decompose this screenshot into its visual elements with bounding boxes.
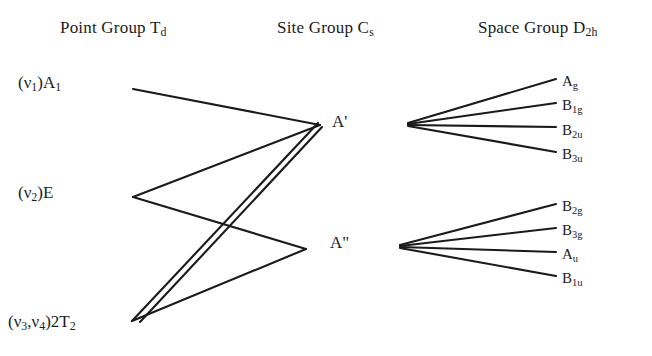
point-group-term-2t2-symbol: )2T [45,312,70,331]
site-group-term-a-prime: A' [332,112,347,132]
column-header-point-group-symbol: T [150,18,161,37]
column-header-point-group-subscript: d [161,25,167,39]
space-group-term-au-letter: A [562,246,573,262]
column-header-space-group-subscript: 2h [585,25,597,39]
column-header-space-group: Space Group D2h [478,18,598,38]
point-group-term-2t2-mode-separator: ,ν [27,312,39,331]
link-adprime-to-b3g [400,228,556,246]
space-group-term-au-subscript: u [573,253,578,264]
space-group-term-ag-subscript: g [573,80,578,91]
space-group-term-b2u: B2u [562,122,583,139]
space-group-term-ag-letter: A [562,73,573,89]
link-adprime-to-b2g [400,204,556,245]
space-group-term-b3g-letter: B [562,222,572,238]
column-header-space-group-symbol: D [573,18,585,37]
site-group-term-a-double-prime: A" [330,233,349,253]
column-header-site-group: Site Group Cs [277,18,374,38]
point-group-term-2t2-subscript: 2 [70,319,76,333]
point-group-term-e-symbol: )E [37,183,53,202]
link-aprime-to-b2u [408,125,556,127]
link-aprime-to-b1g [408,103,556,124]
point-group-term-a1-mode: (ν [18,73,31,92]
link-adprime-to-au [400,247,556,252]
space-group-term-b2u-letter: B [562,122,572,138]
column-header-space-group-text: Space Group [478,18,573,37]
point-group-term-2t2-mode: (ν [8,312,21,331]
link-aprime-to-ag [408,79,556,123]
space-group-term-b2u-subscript: 2u [572,129,583,140]
link-e-to-aprime [133,125,320,197]
column-header-site-group-text: Site Group [277,18,358,37]
column-header-site-group-subscript: s [369,25,374,39]
space-group-term-b3u: B3u [562,146,583,163]
point-group-term-2t2: (ν3,ν4)2T2 [8,312,76,332]
column-header-point-group-text: Point Group [60,18,150,37]
space-group-term-b1g-subscript: 1g [572,104,583,115]
space-group-term-b2g-subscript: 2g [572,205,583,216]
space-group-term-b3g: B3g [562,222,583,239]
point-group-term-a1-subscript: 1 [55,80,61,94]
space-group-term-b3u-letter: B [562,146,572,162]
link-adprime-to-b1u [400,248,556,276]
link-a1-to-aprime [133,89,320,125]
correlation-diagram: Point Group Td Site Group Cs Space Group… [0,0,652,356]
space-group-term-b3g-subscript: 3g [572,229,583,240]
point-group-term-e: (ν2)E [18,183,53,203]
space-group-term-b1u-letter: B [562,270,572,286]
column-header-point-group: Point Group Td [60,18,167,38]
space-group-term-b2g: B2g [562,198,583,215]
link-aprime-to-b3u [408,126,556,152]
point-group-term-e-mode: (ν [18,183,31,202]
space-group-term-au: Au [562,246,578,263]
point-group-term-a1-symbol: )A [37,73,55,92]
space-group-term-ag: Ag [562,73,578,90]
space-group-term-b1u: B1u [562,270,583,287]
space-group-term-b2g-letter: B [562,198,572,214]
link-2t2-to-aprime-b [140,127,322,322]
space-group-term-b1g-letter: B [562,97,572,113]
link-2t2-to-aprime-a [132,123,318,321]
point-group-term-a1: (ν1)A1 [18,73,61,93]
space-group-term-b3u-subscript: 3u [572,153,583,164]
space-group-term-b1u-subscript: 1u [572,277,583,288]
link-e-to-adprime [133,197,306,249]
space-group-term-b1g: B1g [562,97,583,114]
correlation-lines-layer [0,0,652,356]
column-header-site-group-symbol: C [358,18,370,37]
link-2t2-to-adprime [132,249,306,321]
